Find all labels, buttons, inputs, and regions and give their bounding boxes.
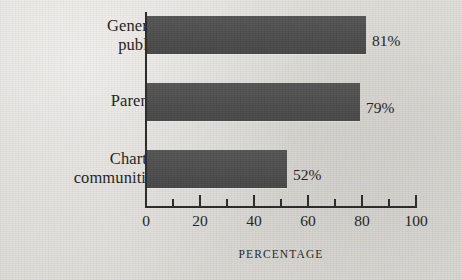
x-tick-major-0 bbox=[145, 195, 147, 207]
x-tick-label-80: 80 bbox=[340, 212, 384, 230]
x-tick-minor-10 bbox=[172, 199, 174, 207]
y-axis-line bbox=[145, 12, 147, 208]
x-tick-minor-50 bbox=[280, 199, 282, 207]
x-tick-minor-90 bbox=[388, 199, 390, 207]
x-tick-minor-30 bbox=[226, 199, 228, 207]
x-tick-label-100: 100 bbox=[394, 212, 438, 230]
bar-value-charter-communities: 52% bbox=[293, 166, 321, 184]
bar-general-public bbox=[147, 16, 366, 54]
x-tick-major-60 bbox=[307, 195, 309, 207]
x-axis-title: PERCENTAGE bbox=[145, 248, 417, 260]
bar-charter-communities bbox=[147, 150, 287, 188]
x-tick-label-0: 0 bbox=[124, 212, 168, 230]
bar-value-parents: 79% bbox=[366, 99, 394, 117]
x-tick-major-80 bbox=[361, 195, 363, 207]
bar-chart: General public Parents Charter communiti… bbox=[0, 0, 462, 280]
x-tick-minor-70 bbox=[334, 199, 336, 207]
x-tick-label-60: 60 bbox=[286, 212, 330, 230]
category-label-general-public: General public bbox=[10, 16, 160, 54]
x-tick-label-40: 40 bbox=[232, 212, 276, 230]
category-label-line2: public bbox=[10, 35, 160, 54]
x-tick-major-20 bbox=[199, 195, 201, 207]
x-tick-major-100 bbox=[415, 195, 417, 207]
x-tick-major-40 bbox=[253, 195, 255, 207]
category-label-charter-communities: Charter communities bbox=[10, 149, 160, 187]
bar-parents bbox=[147, 83, 360, 121]
x-tick-label-20: 20 bbox=[178, 212, 222, 230]
category-label-line2: communities bbox=[10, 168, 160, 187]
bar-value-general-public: 81% bbox=[372, 32, 400, 50]
category-label-parents: Parents bbox=[10, 91, 160, 110]
chart-page: General public Parents Charter communiti… bbox=[0, 0, 462, 280]
